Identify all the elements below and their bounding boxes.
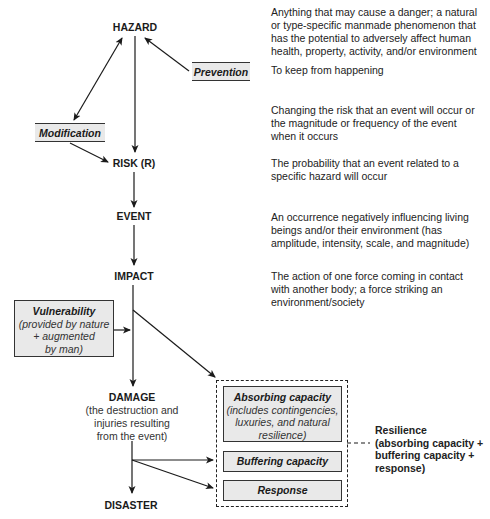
description-line: beings and/or their environment (has (271, 224, 486, 237)
modification-box: Modification (35, 123, 105, 142)
damage-sub-line: injuries resulting (86, 417, 179, 430)
response-title: Response (224, 484, 341, 497)
absorbing-sub-line: luxuries, and natural (224, 416, 341, 429)
description-line: health, property, activity, and/or envir… (271, 45, 486, 58)
modification-description: Changing the risk that an event will occ… (271, 104, 486, 143)
description-line: or type-specific manmade phenomenon that (271, 19, 486, 32)
prevention-description: To keep from happening (271, 64, 486, 77)
risk-description: The probability that an event related to… (271, 157, 486, 183)
damage-sub-line: (the destruction and (86, 404, 179, 417)
vulnerability-sub-line: (provided by nature (15, 318, 113, 331)
description-line: The probability that an event related to… (271, 157, 486, 170)
resilience-line: (absorbing capacity + (375, 437, 483, 450)
description-line: specific hazard will occur (271, 170, 486, 183)
damage-description: (the destruction and injuries resulting … (86, 404, 179, 443)
buffering-capacity-box: Buffering capacity (223, 451, 342, 472)
description-line: with another body; a force striking an (271, 283, 486, 296)
description-line: The action of one force coming in contac… (271, 270, 486, 283)
absorbing-capacity-box: Absorbing capacity (includes contingenci… (223, 386, 342, 442)
node-damage: DAMAGE (109, 391, 156, 403)
node-impact: IMPACT (114, 270, 153, 282)
vulnerability-title: Vulnerability (15, 305, 113, 318)
vulnerability-sub-line: + augmented (15, 330, 113, 343)
node-hazard: HAZARD (113, 21, 157, 33)
impact-description: The action of one force coming in contac… (271, 270, 486, 309)
resilience-label: Resilience (absorbing capacity + bufferi… (375, 424, 483, 474)
modification-label: Modification (39, 127, 101, 139)
buffering-title: Buffering capacity (224, 455, 341, 468)
prevention-label: Prevention (194, 66, 248, 78)
description-line: has the potential to adversely affect hu… (271, 32, 486, 45)
description-line: amplitude, intensity, scale, and magnitu… (271, 237, 486, 250)
description-line: Anything that may cause a danger; a natu… (271, 6, 486, 19)
description-line: environment/society (271, 296, 486, 309)
absorbing-title: Absorbing capacity (224, 391, 341, 404)
damage-sub-line: from the event) (86, 430, 179, 443)
description-line: Changing the risk that an event will occ… (271, 104, 486, 117)
absorbing-sub-line: (includes contingencies, (224, 404, 341, 417)
description-line: An occurrence negatively influencing liv… (271, 211, 486, 224)
event-description: An occurrence negatively influencing liv… (271, 211, 486, 250)
vulnerability-sub-line: by man) (15, 343, 113, 356)
prevention-box: Prevention (192, 62, 250, 81)
description-line: when it occurs (271, 130, 486, 143)
hazard-description: Anything that may cause a danger; a natu… (271, 6, 486, 58)
description-line: the magnitude or frequency of the event (271, 117, 486, 130)
response-box: Response (223, 480, 342, 501)
vulnerability-box: Vulnerability (provided by nature + augm… (14, 300, 114, 357)
node-risk: RISK (R) (113, 157, 156, 169)
resilience-line: buffering capacity + (375, 449, 483, 462)
absorbing-sub-line: resilience) (224, 429, 341, 442)
resilience-line: Resilience (375, 424, 483, 437)
node-event: EVENT (116, 210, 151, 222)
resilience-line: response) (375, 462, 483, 475)
description-line: To keep from happening (271, 64, 486, 77)
node-disaster: DISASTER (104, 499, 157, 511)
